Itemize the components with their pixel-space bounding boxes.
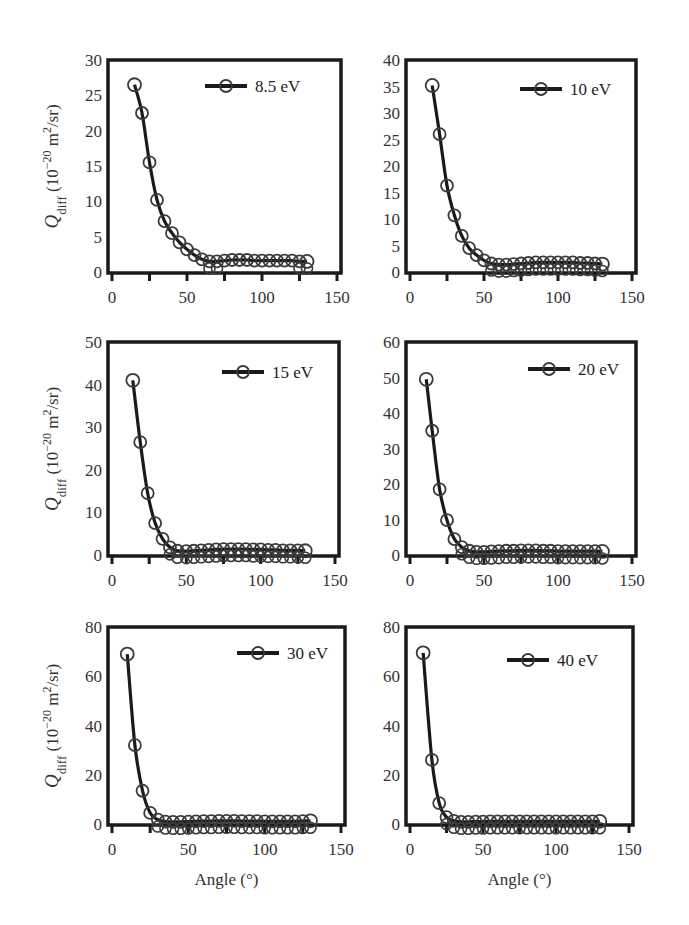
- y-tick-label: 60: [85, 667, 102, 686]
- y-axis-title: Qdiff (10−20 m2/sr): [40, 387, 69, 511]
- x-axis-title: Angle (°): [488, 870, 552, 889]
- y-tick-label: 40: [85, 376, 102, 395]
- y-tick-label: 15: [85, 157, 102, 176]
- y-tick-label: 0: [94, 815, 103, 834]
- y-tick-label: 20: [85, 461, 102, 480]
- y-tick-label: 30: [85, 51, 102, 70]
- series-line: [426, 379, 602, 552]
- chart-panel-8_5-eV: 0501001500510152025308.5 eVQdiff (10−20 …: [40, 51, 350, 307]
- y-tick-label: 30: [383, 104, 400, 123]
- x-tick-label: 0: [108, 288, 117, 307]
- y-tick-label: 10: [383, 511, 400, 530]
- x-tick-label: 100: [545, 288, 571, 307]
- y-tick-label: 5: [392, 237, 401, 256]
- y-tick-label: 5: [94, 228, 103, 247]
- x-tick-label: 100: [543, 840, 569, 859]
- x-tick-label: 50: [476, 571, 493, 590]
- y-tick-label: 20: [383, 475, 400, 494]
- y-axis-title: Qdiff (10−20 m2/sr): [40, 104, 69, 228]
- x-tick-label: 0: [108, 571, 117, 590]
- y-tick-label: 60: [383, 333, 400, 352]
- y-tick-label: 40: [85, 717, 102, 736]
- x-tick-label: 0: [108, 840, 117, 859]
- legend-label: 20 eV: [578, 360, 620, 379]
- legend-label: 40 eV: [557, 651, 599, 670]
- y-tick-label: 30: [85, 418, 102, 437]
- y-tick-label: 80: [85, 618, 102, 637]
- legend-label: 8.5 eV: [255, 77, 301, 96]
- x-tick-label: 50: [475, 840, 492, 859]
- x-axis-title: Angle (°): [195, 870, 259, 889]
- y-tick-label: 35: [383, 78, 400, 97]
- x-tick-label: 0: [406, 840, 415, 859]
- y-tick-label: 0: [392, 263, 401, 282]
- y-tick-label: 25: [383, 131, 400, 150]
- x-tick-label: 50: [178, 571, 195, 590]
- y-tick-label: 0: [392, 546, 401, 565]
- x-tick-label: 100: [252, 840, 278, 859]
- legend-label: 15 eV: [272, 363, 314, 382]
- x-tick-label: 150: [322, 571, 348, 590]
- chart-panel-10-eV: 050100150051015202530354010 eV: [383, 51, 645, 307]
- x-tick-label: 100: [249, 288, 275, 307]
- x-tick-label: 150: [619, 288, 645, 307]
- y-tick-label: 20: [85, 766, 102, 785]
- plot-frame: [406, 627, 633, 825]
- y-tick-label: 30: [383, 440, 400, 459]
- y-tick-label: 20: [383, 766, 400, 785]
- chart-panel-20-eV: 050100150010203040506020 eV: [383, 333, 645, 590]
- y-tick-label: 0: [392, 815, 401, 834]
- x-tick-label: 0: [406, 571, 415, 590]
- series-line: [432, 85, 602, 264]
- x-tick-label: 50: [476, 288, 493, 307]
- series-line: [135, 85, 308, 262]
- series-line: [133, 380, 305, 551]
- x-tick-label: 150: [328, 840, 354, 859]
- y-axis-title: Qdiff (10−20 m2/sr): [40, 664, 69, 788]
- chart-panel-30-eV: 05010015002040608030 eVQdiff (10−20 m2/s…: [40, 618, 354, 889]
- y-tick-label: 0: [94, 263, 103, 282]
- x-tick-label: 150: [619, 571, 645, 590]
- y-tick-label: 25: [85, 86, 102, 105]
- legend-label: 10 eV: [570, 80, 612, 99]
- x-tick-label: 100: [545, 571, 571, 590]
- y-tick-label: 10: [85, 503, 102, 522]
- x-tick-label: 50: [179, 288, 196, 307]
- y-tick-label: 60: [383, 667, 400, 686]
- y-tick-label: 0: [94, 546, 103, 565]
- y-tick-label: 50: [85, 333, 102, 352]
- x-tick-label: 150: [616, 840, 642, 859]
- x-tick-label: 50: [180, 840, 197, 859]
- y-tick-label: 50: [383, 369, 400, 388]
- x-tick-label: 100: [248, 571, 274, 590]
- y-tick-label: 20: [383, 157, 400, 176]
- chart-panel-15-eV: 0501001500102030405015 eVQdiff (10−20 m2…: [40, 333, 348, 590]
- y-tick-label: 40: [383, 717, 400, 736]
- x-tick-label: 0: [406, 288, 415, 307]
- series-line: [127, 654, 310, 822]
- y-tick-label: 40: [383, 404, 400, 423]
- legend-label: 30 eV: [287, 644, 329, 663]
- series-line: [423, 653, 600, 822]
- y-tick-label: 10: [383, 210, 400, 229]
- chart-panel-40-eV: 05010015002040608040 eVAngle (°): [383, 618, 642, 889]
- y-tick-label: 80: [383, 618, 400, 637]
- y-tick-label: 15: [383, 184, 400, 203]
- y-tick-label: 40: [383, 51, 400, 70]
- y-tick-label: 20: [85, 122, 102, 141]
- figure-canvas: 0501001500510152025308.5 eVQdiff (10−20 …: [0, 0, 689, 925]
- y-tick-label: 10: [85, 192, 102, 211]
- x-tick-label: 150: [324, 288, 350, 307]
